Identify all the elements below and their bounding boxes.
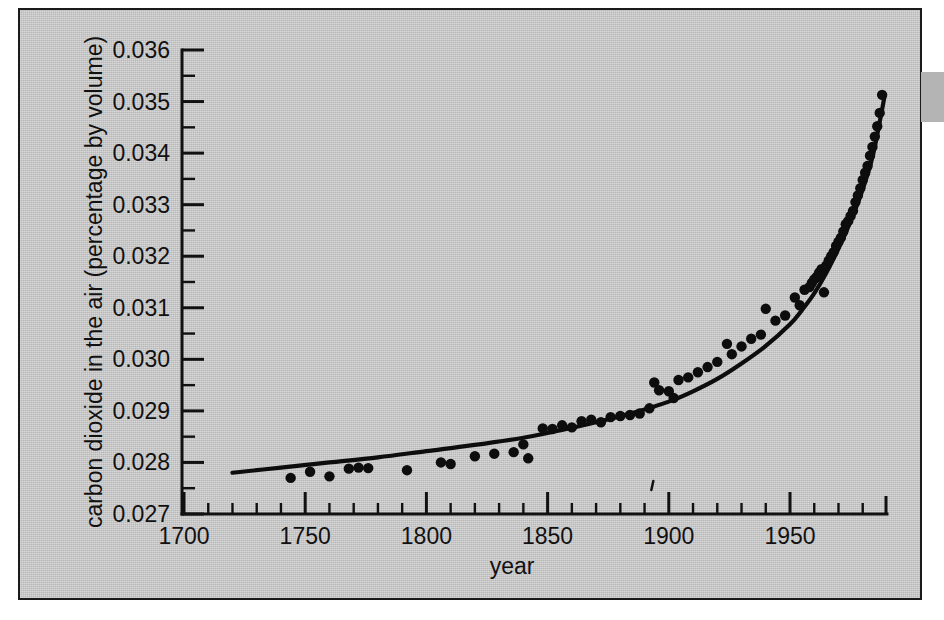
data-point [489,448,499,458]
data-point [727,349,737,359]
data-point [605,412,615,422]
data-point [518,439,528,449]
data-point [557,420,567,430]
data-point [470,451,480,461]
data-point [780,310,790,320]
data-point [644,403,654,413]
x-axis-ticks [184,492,863,514]
co2-scatter-chart: 0.0270.0280.0290.0300.0310.0320.0330.034… [20,10,922,600]
y-tick-label: 0.032 [112,243,170,269]
data-point [625,410,635,420]
data-point [693,367,703,377]
data-point [668,393,678,403]
data-point [702,362,712,372]
data-point [547,424,557,434]
figure-page: 0.0270.0280.0290.0300.0310.0320.0330.034… [0,0,944,620]
data-point [870,131,880,141]
data-point [353,462,363,472]
y-tick-label: 0.036 [112,37,170,63]
figure-plate: 0.0270.0280.0290.0300.0310.0320.0330.034… [18,8,922,600]
x-axis-tick-labels: 170017501800185019001950 [158,523,815,549]
y-tick-label: 0.033 [112,192,170,218]
data-point [877,90,887,100]
data-point [596,417,606,427]
x-axis-title: year [490,553,535,579]
stray-mark [651,481,653,490]
y-axis-tick-labels: 0.0270.0280.0290.0300.0310.0320.0330.034… [112,37,170,527]
x-tick-label: 1950 [764,523,815,549]
data-point [508,447,518,457]
data-point [538,423,548,433]
data-point [324,471,334,481]
x-tick-label: 1750 [280,523,331,549]
data-point [770,315,780,325]
data-point [586,414,596,424]
data-point [445,459,455,469]
data-point [862,161,872,171]
y-tick-label: 0.030 [112,346,170,372]
data-point [872,121,882,131]
data-point [874,108,884,118]
x-tick-label: 1900 [643,523,694,549]
y-tick-label: 0.028 [112,449,170,475]
data-point [712,357,722,367]
y-axis-ticks [182,50,204,514]
data-point [673,375,683,385]
data-point [344,463,354,473]
y-tick-label: 0.029 [112,398,170,424]
x-tick-label: 1850 [522,523,573,549]
data-point [848,206,858,216]
y-tick-label: 0.034 [112,140,170,166]
data-point [795,300,805,310]
data-point [402,465,412,475]
data-point [567,422,577,432]
data-point [436,457,446,467]
data-point [635,408,645,418]
x-tick-label: 1700 [158,523,209,549]
fitted-trend-curve [232,96,884,472]
data-point [746,334,756,344]
data-point [867,142,877,152]
data-point [576,416,586,426]
data-point [736,341,746,351]
page-edge-tab [921,72,944,122]
y-tick-label: 0.035 [112,89,170,115]
data-point [761,304,771,314]
data-point [722,339,732,349]
x-tick-label: 1800 [401,523,452,549]
data-point [615,411,625,421]
data-point [285,473,295,483]
data-point [819,287,829,297]
y-tick-label: 0.031 [112,295,170,321]
data-point [865,150,875,160]
data-point [756,329,766,339]
data-point [305,467,315,477]
y-axis-title: carbon dioxide in the air (percentage by… [81,36,107,528]
data-point [654,385,664,395]
stray-mark-group [651,481,653,490]
data-point [523,453,533,463]
data-point [363,463,373,473]
data-point [683,372,693,382]
